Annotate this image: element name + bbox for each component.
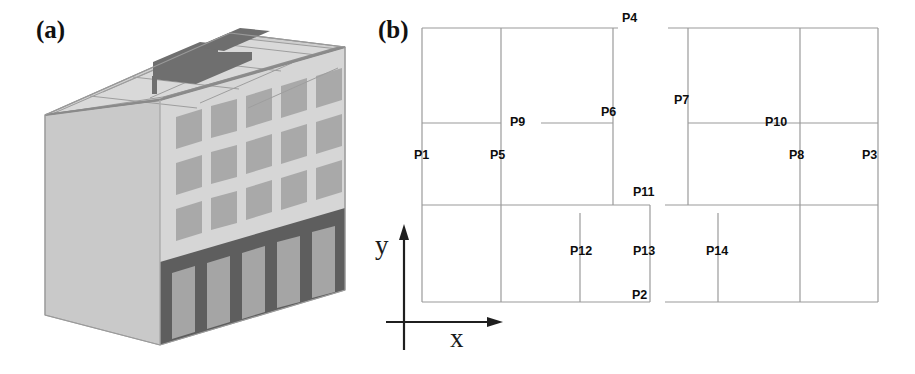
x-axis-label: x [450, 325, 464, 352]
panel-a-building: (a) [0, 0, 370, 374]
panel-b-floorplan: (b) [370, 0, 915, 374]
plan-point-label-p2: P2 [632, 289, 647, 302]
y-axis-arrowhead [399, 224, 409, 240]
plan-wall-lines [422, 28, 878, 302]
building-axonometric-svg [0, 0, 370, 374]
x-axis-arrowhead [487, 317, 503, 327]
plan-point-label-p1: P1 [414, 149, 429, 162]
plan-point-label-p11: P11 [633, 186, 655, 199]
plan-point-label-p8: P8 [789, 149, 804, 162]
plan-point-label-p6: P6 [601, 106, 616, 119]
building-roof-vent [152, 76, 157, 94]
figure-root: (a) [0, 0, 915, 374]
plan-axes [386, 224, 503, 350]
plan-point-label-p3: P3 [862, 149, 877, 162]
plan-point-label-p5: P5 [490, 149, 505, 162]
building-left-wall [45, 100, 160, 345]
plan-point-label-p13: P13 [633, 245, 655, 258]
plan-point-label-p14: P14 [706, 245, 728, 258]
plan-point-label-p10: P10 [765, 116, 787, 129]
plan-point-label-p9: P9 [510, 116, 525, 129]
plan-point-label-p12: P12 [570, 245, 592, 258]
plan-point-label-p4: P4 [622, 12, 637, 25]
plan-point-label-p7: P7 [674, 94, 689, 107]
y-axis-label: y [375, 232, 389, 259]
